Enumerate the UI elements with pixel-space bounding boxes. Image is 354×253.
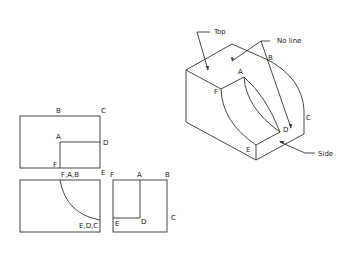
label-side-F: F (110, 171, 114, 179)
drawing-canvas: Top No line Side A B C D E F B C A D F E… (0, 0, 354, 253)
leader-no-line-2 (261, 41, 291, 128)
front-view-inner-step (60, 142, 100, 168)
iso-notch-edge-FA (221, 77, 244, 89)
leader-top (197, 32, 210, 70)
top-view: F,A,B E,D,C (20, 171, 100, 232)
arrowhead-no-line-2 (289, 124, 292, 129)
iso-arc-A-D-front (244, 77, 280, 132)
label-side-D: D (141, 218, 146, 226)
arrowhead-top (206, 66, 209, 71)
iso-ledge-edge (256, 132, 280, 145)
iso-arc-F-E (221, 89, 256, 145)
iso-top-front-edge (186, 70, 221, 89)
label-iso-B: B (268, 54, 273, 62)
isometric-view: Top No line Side A B C D E F (186, 28, 333, 160)
label-side-C: C (171, 214, 176, 222)
top-view-arc (60, 180, 100, 220)
iso-arc-A-D-back (244, 77, 280, 132)
label-front-E: E (101, 169, 105, 177)
label-front-B: B (56, 107, 61, 115)
label-iso-C: C (306, 114, 311, 122)
label-top: Top (213, 28, 226, 36)
label-side-B: B (165, 171, 170, 179)
side-view-inner-step (113, 180, 140, 218)
label-front-C: C (101, 107, 106, 115)
iso-bottom-right-edge (256, 134, 304, 160)
label-front-D: D (103, 139, 108, 147)
label-iso-D: D (283, 126, 288, 134)
front-view: B C A D F E (20, 107, 108, 177)
iso-bottom-left-edge (186, 122, 256, 160)
label-iso-F: F (214, 88, 218, 96)
label-front-A: A (56, 133, 61, 141)
label-side-E: E (115, 220, 119, 228)
label-iso-E: E (246, 146, 250, 154)
side-view: F A B C E D (110, 171, 176, 232)
label-top-FAB: F,A,B (61, 171, 79, 179)
label-no-line: No line (277, 37, 301, 45)
label-top-EDC: E,D,C (79, 222, 98, 230)
label-iso-A: A (238, 68, 243, 76)
label-front-F: F (53, 161, 57, 169)
iso-top-left-edge (186, 44, 268, 122)
label-side: Side (318, 150, 333, 158)
label-side-A: A (137, 171, 142, 179)
iso-outer-arc-BC (268, 60, 304, 110)
